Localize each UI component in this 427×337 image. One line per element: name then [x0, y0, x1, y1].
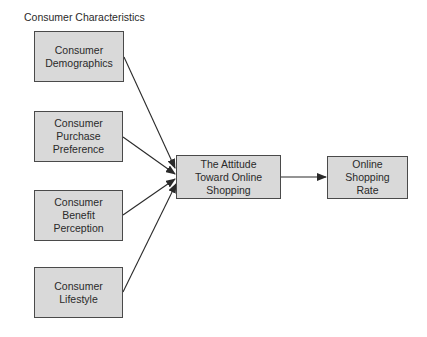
node-label-line: Consumer [54, 280, 102, 293]
node-online-shopping-rate: Online Shopping Rate [327, 156, 408, 199]
node-label-line: Perception [53, 222, 103, 235]
node-consumer-lifestyle: Consumer Lifestyle [34, 267, 123, 318]
node-label-line: Consumer [45, 44, 113, 57]
edge-lifestyle-to-attitude [123, 184, 176, 292]
node-consumer-purchase-preference: Consumer Purchase Preference [34, 111, 123, 162]
group-label-consumer-characteristics: Consumer Characteristics [24, 11, 145, 23]
node-label-line: Demographics [45, 57, 113, 70]
node-label-line: Online [345, 158, 389, 171]
node-consumer-demographics: Consumer Demographics [34, 31, 124, 82]
edge-purchase-preference-to-attitude [123, 137, 175, 174]
node-label-line: Consumer [53, 196, 103, 209]
node-label-line: Lifestyle [54, 293, 102, 306]
node-label-line: Rate [345, 184, 389, 197]
edge-demographics-to-attitude [124, 57, 175, 168]
edge-benefit-perception-to-attitude [123, 179, 175, 215]
node-consumer-benefit-perception: Consumer Benefit Perception [34, 190, 123, 241]
node-label-line: Benefit [53, 209, 103, 222]
node-label-line: Shopping [345, 171, 389, 184]
node-attitude-toward-online-shopping: The Attitude Toward Online Shopping [176, 155, 281, 199]
node-label-line: Shopping [195, 184, 262, 197]
node-label-line: Toward Online [195, 171, 262, 184]
node-label-line: Preference [53, 143, 104, 156]
node-label-line: Consumer [53, 117, 104, 130]
node-label-line: Purchase [53, 130, 104, 143]
node-label-line: The Attitude [195, 158, 262, 171]
